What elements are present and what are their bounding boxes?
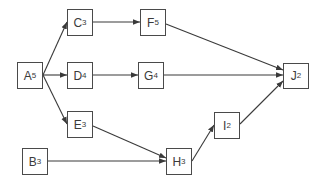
node-letter: F [147, 16, 154, 30]
node-letter: G [144, 69, 153, 83]
edge-h-i-arrow [192, 125, 214, 161]
edge-a-e-arrow [43, 75, 67, 124]
edge-a-c-arrow [43, 22, 67, 75]
node-letter: B [29, 155, 37, 169]
node-c: C3 [67, 9, 93, 36]
node-letter: C [73, 16, 82, 30]
node-h: H3 [166, 148, 192, 175]
node-f: F5 [140, 9, 166, 36]
edge-f-j-arrow [166, 24, 283, 70]
node-letter: A [24, 69, 32, 83]
node-a: A5 [17, 62, 43, 89]
edge-i-j-arrow [240, 81, 283, 124]
node-b: B3 [22, 148, 48, 175]
node-i: I2 [214, 112, 240, 139]
node-letter: E [74, 118, 82, 132]
node-e: E3 [67, 111, 93, 138]
node-letter: J [291, 69, 297, 83]
node-d: D4 [67, 62, 93, 89]
edge-e-h-arrow [93, 126, 166, 158]
node-letter: H [172, 155, 181, 169]
activity-network-diagram: A5 B3 C3 D4 E3 F5 G4 H3 I2 J2 [0, 0, 326, 189]
node-letter: D [73, 69, 82, 83]
node-g: G4 [138, 62, 164, 89]
node-j: J2 [283, 63, 309, 89]
